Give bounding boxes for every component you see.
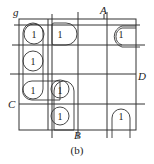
cell-one: 1 — [58, 29, 63, 40]
cell-one: 1 — [31, 85, 36, 96]
var-label-D: D — [137, 70, 146, 82]
cell-one: 1 — [32, 29, 37, 40]
var-label-g: g — [13, 6, 19, 18]
group-loop — [52, 23, 77, 45]
cell-one: 1 — [119, 29, 124, 40]
var-label-B: B — [74, 129, 81, 141]
cell-one: 1 — [58, 85, 63, 96]
cell-one: 1 — [119, 111, 124, 122]
cell-one: 1 — [58, 111, 63, 122]
var-label-C: C — [8, 98, 16, 110]
var-label-A: A — [99, 4, 107, 16]
figure-caption: (b) — [71, 144, 84, 157]
karnaugh-map: g A D C B 1 1 1 1 1 1 1 1 (b) — [0, 0, 154, 164]
cell-one: 1 — [31, 56, 36, 67]
